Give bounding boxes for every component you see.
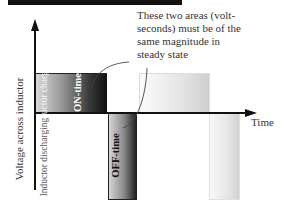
leader-line-on	[92, 62, 129, 87]
leader-line-off	[123, 68, 147, 128]
y-axis-label: Voltage across inductor	[12, 72, 26, 186]
y-axis-arrow-icon	[31, 19, 39, 31]
off-time-label: OFF-time	[109, 126, 122, 186]
discharging-label: Inductor discharging	[38, 100, 50, 214]
on-time-label: ON-time	[71, 68, 84, 118]
x-axis-label: Time	[251, 116, 274, 128]
